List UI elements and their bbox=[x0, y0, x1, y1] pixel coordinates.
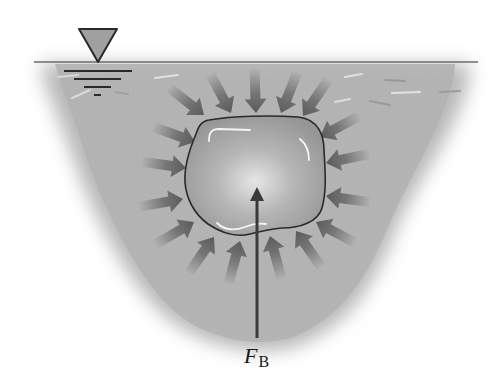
buoyancy-diagram: FB bbox=[0, 0, 499, 389]
force-subscript: B bbox=[258, 353, 269, 370]
buoyant-force-label: FB bbox=[244, 343, 268, 369]
submerged-body bbox=[185, 116, 325, 235]
force-symbol: F bbox=[244, 343, 257, 368]
